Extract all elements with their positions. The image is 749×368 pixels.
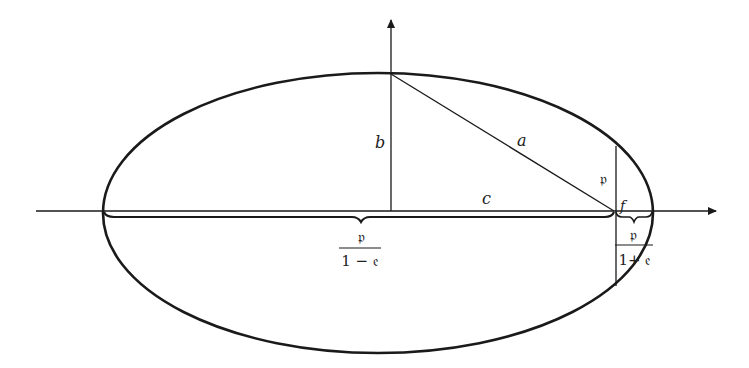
semi-major-line	[391, 74, 614, 211]
left-fraction-denominator: 1 − 𝔢	[341, 252, 379, 270]
right-fraction-denominator: 1+ 𝔢	[619, 251, 652, 269]
ellipse	[103, 73, 653, 353]
label-c: c	[482, 189, 491, 208]
right-fraction-numerator: 𝔭	[630, 226, 637, 244]
label-b: b	[375, 133, 385, 152]
ellipse-diagram: b a c f 𝔭 𝔭 1 − 𝔢 𝔭 1+ 𝔢	[0, 0, 749, 368]
label-a: a	[517, 131, 527, 150]
left-fraction-numerator: 𝔭	[358, 228, 365, 246]
left-brace	[104, 212, 614, 222]
label-semi-latus-rectum: 𝔭	[600, 170, 607, 188]
